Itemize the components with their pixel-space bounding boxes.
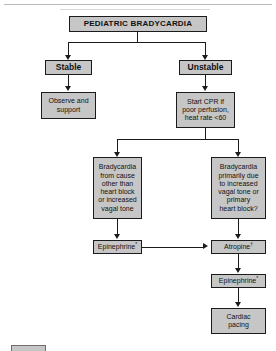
connector-cpr-bus — [117, 139, 239, 140]
node-cardiac-pacing: Cardiac pacing — [211, 308, 266, 334]
connector-title-to-unstable — [205, 42, 206, 56]
connector-cpr-to-right-decision — [238, 139, 239, 153]
node-title-label: PEDIATRIC BRADYCARDIA — [72, 19, 204, 28]
node-atropine: Atropine† — [211, 240, 266, 254]
arrowhead-to-epinephrine-left — [114, 234, 120, 239]
node-unstable-label: Unstable — [182, 62, 229, 72]
connector-title-bus — [68, 42, 206, 43]
connector-cpr-down — [205, 128, 206, 139]
footnote-marker-asterisk-2: * — [256, 276, 258, 281]
connector-epinephrine-to-atropine — [142, 247, 204, 248]
legend-swatch-partial — [11, 345, 46, 351]
node-atropine-label: Atropine† — [214, 243, 263, 251]
node-start-cpr: Start CPR if poor perfusion, heat rate <… — [176, 92, 235, 128]
top-divider-rule-secondary — [60, 9, 210, 10]
node-stable-label: Stable — [48, 62, 89, 72]
node-observe-label: Observe and support — [44, 97, 93, 114]
arrowhead-to-epinephrine-right — [235, 268, 241, 273]
top-divider-rule — [4, 4, 272, 5]
node-epinephrine-left-label: Epinephrine* — [96, 243, 139, 251]
connector-title-down — [137, 32, 138, 42]
arrowhead-to-observe — [65, 86, 71, 91]
node-epinephrine-right-label: Epinephrine* — [214, 277, 263, 285]
node-unstable: Unstable — [179, 60, 232, 75]
footnote-marker-dagger: † — [250, 242, 253, 247]
node-bradycardia-other-cause-label: Bradycardia from cause other than heart … — [96, 163, 139, 213]
arrowhead-to-cardiac-pacing — [235, 302, 241, 307]
pediatric-bradycardia-flowchart: PEDIATRIC BRADYCARDIA Stable Unstable Ob… — [0, 0, 276, 351]
node-bradycardia-other-cause: Bradycardia from cause other than heart … — [93, 157, 142, 219]
node-bradycardia-vagal-heart-block: Bradycardia primarily due to increased v… — [211, 157, 266, 219]
node-epinephrine-left: Epinephrine* — [93, 240, 142, 254]
node-bradycardia-vagal-label: Bradycardia primarily due to increased v… — [214, 163, 263, 213]
arrowhead-to-atropine — [235, 234, 241, 239]
arrowhead-to-atropine-horizontal — [203, 243, 208, 249]
footnote-marker-asterisk: * — [135, 242, 137, 247]
arrowhead-to-cpr — [202, 86, 208, 91]
node-observe-and-support: Observe and support — [41, 92, 96, 119]
node-stable: Stable — [45, 60, 92, 75]
node-epinephrine-right: Epinephrine* — [211, 274, 266, 288]
connector-title-to-stable — [68, 42, 69, 56]
node-pediatric-bradycardia-title: PEDIATRIC BRADYCARDIA — [69, 16, 207, 32]
connector-cpr-to-left-decision — [117, 139, 118, 153]
node-start-cpr-label: Start CPR if poor perfusion, heat rate <… — [179, 98, 232, 123]
node-cardiac-pacing-label: Cardiac pacing — [214, 313, 263, 330]
